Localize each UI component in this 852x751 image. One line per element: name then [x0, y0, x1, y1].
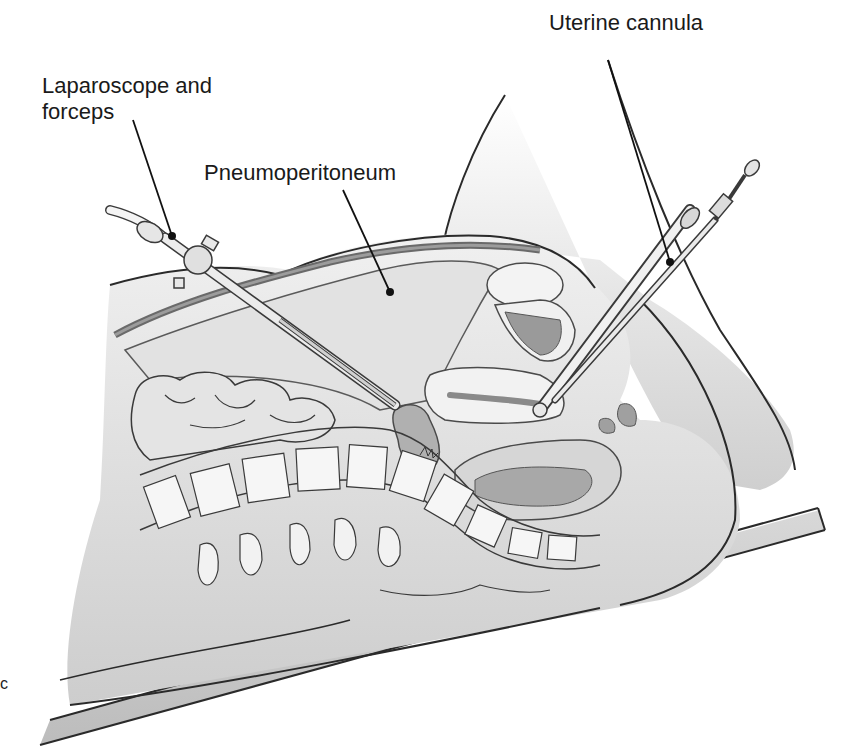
label-laparoscope-line2: forceps: [42, 99, 212, 125]
label-uterine-cannula: Uterine cannula: [549, 10, 703, 36]
panel-letter: c: [0, 675, 8, 693]
label-laparoscope-and-forceps: Laparoscope and forceps: [42, 73, 212, 125]
label-pneumoperitoneum: Pneumoperitoneum: [204, 160, 396, 186]
laparoscopy-illustration: Laparoscope and forceps Pneumoperitoneum…: [0, 0, 852, 751]
leader-uterine-cannula: [608, 60, 670, 262]
label-laparoscope-line1: Laparoscope and: [42, 73, 212, 99]
